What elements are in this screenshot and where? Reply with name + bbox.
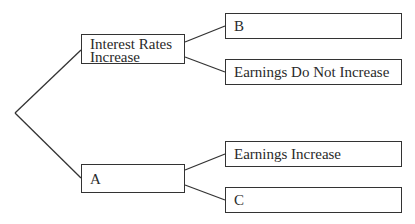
node-label-line-2: Increase xyxy=(90,51,184,64)
edge-root-to-interest-rates xyxy=(15,50,81,113)
edge-a-to-c xyxy=(185,185,225,200)
edge-a-to-earnings-increase xyxy=(185,154,225,170)
node-c: C xyxy=(225,187,402,213)
node-label: C xyxy=(234,192,244,208)
node-interest-rates-increase: Interest Rates Increase xyxy=(81,34,185,64)
node-label: Earnings Increase xyxy=(234,146,341,162)
node-earnings-do-not-increase: Earnings Do Not Increase xyxy=(225,59,402,85)
node-label: A xyxy=(90,173,184,186)
node-b: B xyxy=(225,13,402,39)
node-earnings-increase: Earnings Increase xyxy=(225,141,402,167)
node-a: A xyxy=(81,164,185,193)
edge-root-to-a xyxy=(15,113,81,178)
edge-interest-rates-to-earnings-do-not-increase xyxy=(185,57,225,72)
node-label: Earnings Do Not Increase xyxy=(234,64,389,80)
node-label: B xyxy=(234,18,244,34)
edge-interest-rates-to-b xyxy=(185,26,225,42)
